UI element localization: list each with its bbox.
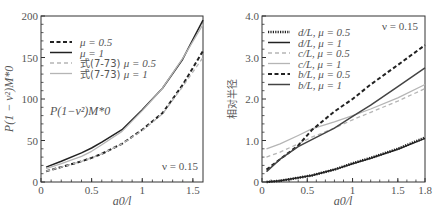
left-y-axis-label: P(1 − ν²)M*0 [2,66,16,133]
x-tick-label: 0 [38,184,44,196]
left-nu-label: ν = 0.15 [162,160,198,172]
y-tick-label: 50 [27,135,39,147]
y-tick-label: 4.0 [245,10,259,22]
figure: 050100150200 00.511.5 μ = 0.5μ = 1式(7-73… [0,0,437,215]
legend-label: μ = 1 [79,47,104,59]
x-tick-label: 1 [140,184,146,196]
x-tick-label: 0.5 [85,184,99,196]
right-series [267,45,426,182]
right-y-axis-label: 相对半径 [226,79,238,119]
x-tick-label: 1.8 [418,184,432,196]
x-tick-label: 1.5 [186,184,200,196]
right-legend: d/L, μ = 0.5d/L, μ = 1c/L, μ = 0.5c/L, μ… [268,26,351,91]
y-tick-label: 200 [22,10,39,22]
y-tick-label: 1.0 [245,135,259,147]
x-tick-label: 1.5 [391,184,405,196]
series-line [46,24,203,168]
x-tick-label: 0 [259,184,265,196]
left-legend: μ = 0.5μ = 1式(7-73) μ = 0.5式(7-73) μ = 1 [50,36,156,80]
series-line [267,68,426,172]
x-tick-label: 0.5 [300,184,314,196]
series-line [267,138,426,182]
legend-label: b/L, μ = 1 [298,79,342,91]
y-tick-label: 3.0 [245,52,259,64]
right-panel: 01.02.03.04.0 00.511.51.8 d/L, μ = 0.5d/… [226,10,432,208]
left-x-axis-label: a0/l [113,194,132,208]
y-tick-label: 150 [22,52,39,64]
left-plot-frame [41,16,203,182]
legend-label: 式(7-73) μ = 1 [80,68,148,80]
right-y-ticks: 01.02.03.04.0 [245,10,266,188]
series-line [267,138,426,182]
left-inset-label: P(1−ν²)M*0 [49,104,110,118]
right-x-axis-label: a0/l [334,194,353,208]
left-panel: 050100150200 00.511.5 μ = 0.5μ = 1式(7-73… [2,10,203,208]
right-nu-label: ν = 0.15 [382,20,418,32]
y-tick-label: 100 [22,93,39,105]
series-line [267,45,426,170]
y-tick-label: 2.0 [245,93,259,105]
chart-canvas: 050100150200 00.511.5 μ = 0.5μ = 1式(7-73… [0,0,437,215]
series-line [267,85,426,149]
right-plot-frame [262,16,425,182]
